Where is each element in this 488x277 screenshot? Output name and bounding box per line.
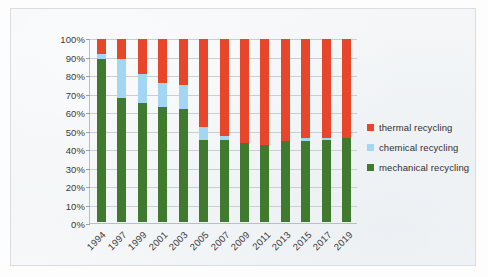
- bar-segment-thermal[interactable]: [117, 39, 126, 59]
- legend-swatch-icon: [367, 144, 374, 151]
- y-axis-tick-label: 40%: [66, 145, 85, 156]
- stacked-bar[interactable]: [301, 39, 310, 222]
- x-axis-tick-label: 1994: [85, 229, 108, 252]
- y-axis-tick-label: 0%: [71, 219, 85, 230]
- bar-segment-mechanical[interactable]: [220, 140, 229, 222]
- plot-area: [89, 39, 357, 224]
- y-axis-tick-label: 100%: [60, 34, 85, 45]
- x-axis-tick-label: 2003: [167, 229, 190, 252]
- x-axis-tick-label: 1999: [126, 229, 149, 252]
- legend-swatch-icon: [367, 164, 374, 171]
- x-axis-tick-label: 2019: [331, 229, 354, 252]
- legend-item[interactable]: mechanical recycling: [367, 162, 483, 173]
- bar-segment-thermal[interactable]: [301, 39, 310, 138]
- bar-segment-thermal[interactable]: [240, 39, 249, 143]
- y-axis-tick-mark: [86, 187, 90, 188]
- bar-segment-mechanical[interactable]: [240, 143, 249, 222]
- bar-slot: [173, 39, 193, 222]
- x-axis-tick-label: 1997: [105, 229, 128, 252]
- bar-slot: [91, 39, 111, 222]
- y-axis-tick-label: 50%: [66, 126, 85, 137]
- y-axis-tick-mark: [86, 206, 90, 207]
- bar-group: [91, 39, 357, 222]
- bar-segment-mechanical[interactable]: [260, 145, 269, 222]
- y-axis-labels: 100%90%80%70%60%50%40%30%20%10%0%: [41, 39, 87, 224]
- stacked-bar[interactable]: [260, 39, 269, 222]
- bar-segment-chemical[interactable]: [179, 85, 188, 109]
- bar-segment-thermal[interactable]: [220, 39, 229, 136]
- x-axis-tick-label: 2007: [208, 229, 231, 252]
- bar-segment-mechanical[interactable]: [97, 59, 106, 222]
- bar-segment-thermal[interactable]: [138, 39, 147, 74]
- bar-slot: [152, 39, 172, 222]
- bar-slot: [234, 39, 254, 222]
- legend-label: thermal recycling: [379, 122, 453, 133]
- y-axis-tick-label: 10%: [66, 200, 85, 211]
- bar-segment-thermal[interactable]: [260, 39, 269, 145]
- x-axis-tick-label: 2005: [187, 229, 210, 252]
- bar-segment-mechanical[interactable]: [158, 107, 167, 222]
- bar-segment-thermal[interactable]: [342, 39, 351, 138]
- stacked-bar[interactable]: [240, 39, 249, 222]
- stacked-bar[interactable]: [117, 39, 126, 222]
- y-axis-tick-mark: [86, 76, 90, 77]
- bar-segment-thermal[interactable]: [199, 39, 208, 127]
- bar-segment-chemical[interactable]: [138, 74, 147, 103]
- bar-slot: [316, 39, 336, 222]
- bar-slot: [193, 39, 213, 222]
- y-axis-tick-label: 90%: [66, 52, 85, 63]
- y-axis-tick-label: 70%: [66, 89, 85, 100]
- bar-segment-thermal[interactable]: [158, 39, 167, 83]
- legend-item[interactable]: chemical recycling: [367, 142, 483, 153]
- bar-segment-mechanical[interactable]: [322, 140, 331, 222]
- stacked-bar[interactable]: [281, 39, 290, 222]
- y-axis-tick-mark: [86, 150, 90, 151]
- bar-segment-mechanical[interactable]: [281, 141, 290, 222]
- y-axis-tick-label: 60%: [66, 108, 85, 119]
- bar-slot: [214, 39, 234, 222]
- stacked-bar[interactable]: [138, 39, 147, 222]
- bar-segment-mechanical[interactable]: [117, 98, 126, 222]
- y-axis-tick-label: 80%: [66, 71, 85, 82]
- legend-label: chemical recycling: [379, 142, 458, 153]
- legend-label: mechanical recycling: [379, 162, 469, 173]
- stacked-bar[interactable]: [342, 39, 351, 222]
- bar-segment-chemical[interactable]: [199, 127, 208, 140]
- stacked-bar[interactable]: [199, 39, 208, 222]
- legend-swatch-icon: [367, 124, 374, 131]
- stacked-bar[interactable]: [220, 39, 229, 222]
- y-axis-tick-mark: [86, 113, 90, 114]
- bar-segment-mechanical[interactable]: [342, 138, 351, 222]
- legend-item[interactable]: thermal recycling: [367, 122, 483, 133]
- chart-legend: thermal recyclingchemical recyclingmecha…: [367, 122, 483, 182]
- bar-segment-thermal[interactable]: [179, 39, 188, 85]
- bar-segment-thermal[interactable]: [97, 39, 106, 54]
- x-axis-tick-label: 2001: [146, 229, 169, 252]
- bar-slot: [275, 39, 295, 222]
- x-axis-tick-label: 2017: [311, 229, 334, 252]
- x-axis-tick-label: 2011: [250, 229, 273, 252]
- stacked-bar[interactable]: [158, 39, 167, 222]
- y-axis-tick-label: 30%: [66, 163, 85, 174]
- stacked-bar[interactable]: [97, 39, 106, 222]
- y-axis-tick-label: 20%: [66, 182, 85, 193]
- x-axis-tick-label: 2015: [290, 229, 313, 252]
- stacked-bar[interactable]: [179, 39, 188, 222]
- bar-segment-mechanical[interactable]: [199, 140, 208, 222]
- x-axis-tick-label: 2009: [229, 229, 252, 252]
- y-axis-tick-mark: [86, 169, 90, 170]
- x-axis-tick-label: 2013: [270, 229, 293, 252]
- bar-segment-chemical[interactable]: [117, 59, 126, 97]
- y-axis-tick-mark: [86, 58, 90, 59]
- bar-segment-mechanical[interactable]: [301, 141, 310, 222]
- bar-slot: [255, 39, 275, 222]
- bar-segment-mechanical[interactable]: [179, 109, 188, 222]
- bar-slot: [337, 39, 357, 222]
- bar-segment-mechanical[interactable]: [138, 103, 147, 222]
- bar-segment-thermal[interactable]: [322, 39, 331, 138]
- plot-canvas: [89, 39, 357, 224]
- stacked-bar[interactable]: [322, 39, 331, 222]
- bar-segment-chemical[interactable]: [158, 83, 167, 107]
- y-axis-tick-mark: [86, 39, 90, 40]
- bar-segment-thermal[interactable]: [281, 39, 290, 141]
